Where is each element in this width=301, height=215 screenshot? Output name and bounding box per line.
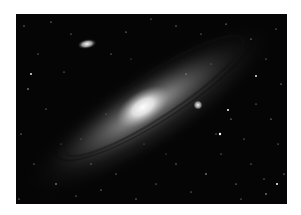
satellite-galaxy: [76, 37, 97, 50]
galaxy-photo: Black-and-white astrophotograph of a lar…: [16, 14, 287, 204]
companion-galaxy: [193, 100, 203, 110]
galaxy-image: [16, 14, 287, 204]
